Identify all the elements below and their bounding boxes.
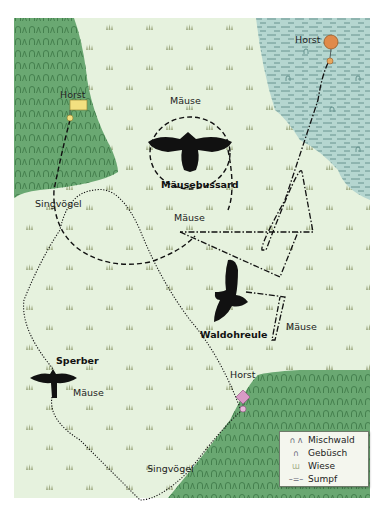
swamp-symbol-icon: –=– (284, 475, 308, 484)
horst-label-bottom-right: Horst (230, 370, 256, 380)
horst-label-top-left: Horst (60, 90, 86, 100)
map-legend: ∩ ʌ Mischwald ∩ Gebüsch ɯ Wiese –=– Sump… (279, 431, 369, 487)
prey-label-singvogel-left: Singvögel (35, 199, 82, 209)
legend-item-gebusch: ∩ Gebüsch (284, 447, 347, 459)
prey-label-singvogel-bottom: Singvögel (147, 464, 194, 474)
prey-label-mause-top: Mäuse (170, 96, 201, 106)
legend-item-wiese: ɯ Wiese (284, 460, 335, 472)
bird-name-sperber: Sperber (56, 356, 99, 366)
grass-symbol-icon: ɯ (284, 462, 308, 471)
horst-label-top-right: Horst (295, 35, 321, 45)
legend-item-mischwald: ∩ ʌ Mischwald (284, 434, 355, 446)
prey-label-mause-bottom: Mäuse (73, 388, 104, 398)
bush-symbol-icon: ∩ (284, 449, 308, 458)
legend-item-sumpf: –=– Sumpf (284, 473, 337, 485)
forest-symbol-icon: ∩ ʌ (284, 436, 308, 445)
bird-name-mausebussard: Mäusebussard (161, 180, 239, 190)
prey-label-mause-right: Mäuse (286, 322, 317, 332)
bird-name-waldohreule: Waldohreule (200, 330, 268, 340)
prey-label-mause-middle: Mäuse (174, 213, 205, 223)
